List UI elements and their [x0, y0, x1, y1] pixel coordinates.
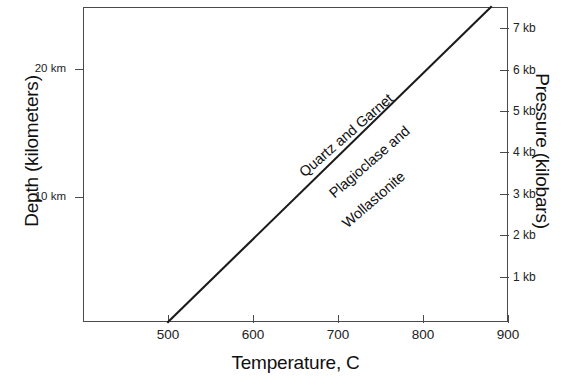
x-ticklabel-900: 900 [478, 327, 538, 342]
y-right-tick-4kb [500, 152, 509, 153]
x-tick-900 [508, 315, 509, 323]
y-right-axis-title: Pressure (kilobars) [531, 1, 553, 301]
x-tick-500 [168, 315, 169, 323]
x-ticklabel-700: 700 [308, 327, 368, 342]
x-tick-800 [423, 315, 424, 323]
y-right-tick-6kb [500, 70, 509, 71]
y-right-tick-7kb [500, 28, 509, 29]
y-right-tick-1kb [500, 277, 509, 278]
x-ticklabel-600: 600 [223, 327, 283, 342]
y-right-tick-2kb [500, 235, 509, 236]
y-right-tick-5kb [500, 111, 509, 112]
y-left-tick-10km [75, 197, 84, 198]
plot-area [83, 7, 508, 322]
y-left-axis-title: Depth (kilometers) [21, 1, 43, 301]
x-ticklabel-500: 500 [138, 327, 198, 342]
x-tick-700 [338, 315, 339, 323]
y-left-tick-20km [75, 69, 84, 70]
phase-diagram-figure: 20 km 10 km 7 kb 6 kb 5 kb 4 kb 3 kb 2 k… [0, 0, 574, 386]
x-ticklabel-800: 800 [393, 327, 453, 342]
y-right-tick-3kb [500, 194, 509, 195]
x-tick-600 [253, 315, 254, 323]
x-axis-title: Temperature, C [83, 352, 508, 374]
